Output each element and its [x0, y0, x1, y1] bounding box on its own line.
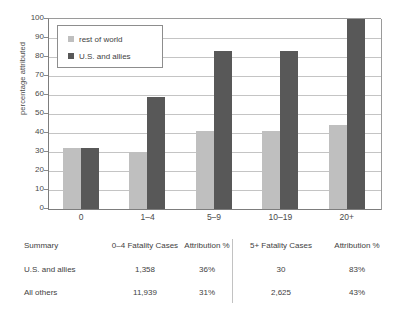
table-cell-label: U.S. and allies — [24, 260, 110, 280]
bar-u-s-and-allies — [214, 51, 232, 209]
table-column-divider — [232, 239, 233, 303]
table-header-cases-5plus: 5+ Fatality Cases — [240, 236, 322, 256]
y-tick-mark — [44, 75, 48, 76]
x-tick-label: 0 — [48, 212, 114, 222]
y-tick-mark — [44, 56, 48, 57]
table-header-attribution-0-4: Attribution % — [182, 236, 232, 256]
y-tick-label: 50 — [18, 109, 44, 117]
y-axis-tick-labels: 0102030405060708090100 — [18, 12, 44, 212]
y-tick-label: 70 — [18, 71, 44, 79]
table-cell-cases-5plus: 30 — [240, 260, 322, 280]
y-tick-label: 80 — [18, 52, 44, 60]
table-header-cases-0-4: 0–4 Fatality Cases — [110, 236, 180, 256]
x-tick-label: 1–4 — [114, 212, 180, 222]
table-cell-cases-5plus: 2,625 — [240, 283, 322, 303]
table-cell-cases-0-4: 11,939 — [110, 283, 180, 303]
bar-u-s-and-allies — [81, 148, 99, 209]
y-tick-mark — [44, 151, 48, 152]
table-cell-attr-5plus: 43% — [326, 283, 388, 303]
y-tick-label: 0 — [18, 204, 44, 212]
y-tick-label: 40 — [18, 128, 44, 136]
legend-label-rest-of-world: rest of world — [79, 35, 123, 44]
table-header-attribution-5plus: Attribution % — [326, 236, 388, 256]
x-tick-label: 5–9 — [181, 212, 247, 222]
table-cell-cases-0-4: 1,358 — [110, 260, 180, 280]
bar-rest-of-world — [262, 131, 280, 209]
y-tick-mark — [44, 170, 48, 171]
y-tick-label: 30 — [18, 147, 44, 155]
bar-u-s-and-allies — [147, 97, 165, 209]
table-row: All others 11,939 31% 2,625 43% — [0, 283, 408, 303]
bar-group — [248, 19, 314, 209]
y-tick-mark — [44, 94, 48, 95]
bar-chart-figure: percentage attributed 010203040506070809… — [0, 0, 408, 232]
y-tick-mark — [44, 113, 48, 114]
table-cell-attr-0-4: 36% — [182, 260, 232, 280]
x-tick-label: 10–19 — [247, 212, 313, 222]
table-row: U.S. and allies 1,358 36% 30 83% — [0, 260, 408, 280]
y-tick-mark — [44, 132, 48, 133]
table-header-summary: Summary — [24, 236, 110, 256]
summary-table: Summary 0–4 Fatality Cases Attribution %… — [0, 236, 408, 312]
bar-rest-of-world — [196, 131, 214, 209]
legend-entry-us-and-allies: U.S. and allies — [68, 51, 131, 61]
x-tick-label: 20+ — [314, 212, 380, 222]
y-tick-mark — [44, 18, 48, 19]
table-header-row: Summary 0–4 Fatality Cases Attribution %… — [0, 236, 408, 256]
y-tick-label: 100 — [18, 14, 44, 22]
y-tick-label: 60 — [18, 90, 44, 98]
y-tick-mark — [44, 208, 48, 209]
table-cell-attr-0-4: 31% — [182, 283, 232, 303]
y-tick-label: 20 — [18, 166, 44, 174]
bar-u-s-and-allies — [347, 19, 365, 209]
legend-label-us-and-allies: U.S. and allies — [79, 52, 131, 61]
bar-rest-of-world — [63, 148, 81, 209]
table-cell-attr-5plus: 83% — [326, 260, 388, 280]
legend-swatch-us-and-allies — [68, 53, 74, 59]
bar-rest-of-world — [129, 152, 147, 209]
y-tick-label: 90 — [18, 33, 44, 41]
y-tick-mark — [44, 189, 48, 190]
plot-right-border — [381, 19, 382, 210]
bar-rest-of-world — [329, 125, 347, 209]
bar-u-s-and-allies — [280, 51, 298, 209]
y-tick-label: 10 — [18, 185, 44, 193]
chart-legend: rest of world U.S. and allies — [57, 25, 163, 68]
bar-group — [315, 19, 381, 209]
y-tick-mark — [44, 37, 48, 38]
legend-swatch-rest-of-world — [68, 36, 74, 42]
legend-entry-rest-of-world: rest of world — [68, 34, 123, 44]
table-cell-label: All others — [24, 283, 110, 303]
bar-group — [182, 19, 248, 209]
